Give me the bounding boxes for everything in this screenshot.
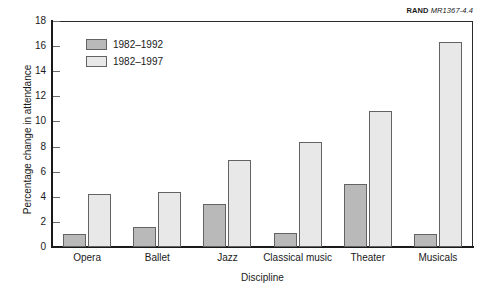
- bar: [203, 204, 226, 247]
- bar: [274, 233, 297, 247]
- bar: [439, 42, 462, 247]
- bar: [369, 111, 392, 247]
- legend-label: 1982–1997: [113, 57, 163, 67]
- bar: [299, 142, 322, 247]
- y-axis-tick: [53, 197, 60, 198]
- y-axis-tick-label: 4: [40, 192, 46, 202]
- y-axis-tick-label: 8: [40, 142, 46, 152]
- y-axis-tick: [53, 172, 60, 173]
- y-axis-tick: [53, 21, 60, 22]
- chart-figure: RAND MR1367-4.4 Percentage change in att…: [0, 0, 490, 297]
- y-axis-tick-label: 18: [35, 16, 46, 26]
- y-axis-tick-label: 6: [40, 167, 46, 177]
- y-axis-tick-label: 10: [35, 116, 46, 126]
- bar: [63, 234, 86, 247]
- y-axis-tick: [53, 46, 60, 47]
- x-axis-title: Discipline: [52, 272, 473, 283]
- bar: [88, 194, 111, 247]
- y-axis-tick-label: 12: [35, 91, 46, 101]
- x-axis-line: [51, 246, 474, 248]
- figure-identifier: RAND MR1367-4.4: [406, 6, 473, 15]
- x-axis-tick-label: Musicals: [378, 252, 490, 263]
- y-axis-tick-label: 2: [40, 217, 46, 227]
- y-axis-tick: [53, 222, 60, 223]
- y-axis-tick: [53, 71, 60, 72]
- figure-identifier-prefix: RAND: [406, 6, 428, 15]
- bar: [133, 227, 156, 247]
- y-axis-tick-label: 14: [35, 66, 46, 76]
- legend-item: 1982–1992: [86, 36, 163, 53]
- y-axis-tick-label: 16: [35, 41, 46, 51]
- y-axis-tick: [53, 96, 60, 97]
- bar: [344, 184, 367, 247]
- figure-identifier-code: MR1367-4.4: [431, 6, 473, 15]
- y-axis-title: Percentage change in attendance: [22, 40, 33, 240]
- y-axis-line: [51, 20, 53, 248]
- y-axis-tick: [53, 147, 60, 148]
- bar: [158, 192, 181, 247]
- legend-label: 1982–1992: [113, 40, 163, 50]
- legend-item: 1982–1997: [86, 53, 163, 70]
- bar: [414, 234, 437, 247]
- legend-swatch-icon: [86, 56, 107, 67]
- y-axis-tick-label: 0: [40, 242, 46, 252]
- legend-swatch-icon: [86, 39, 107, 50]
- bar: [228, 160, 251, 247]
- y-axis-tick: [53, 121, 60, 122]
- chart-legend: 1982–1992 1982–1997: [86, 36, 163, 70]
